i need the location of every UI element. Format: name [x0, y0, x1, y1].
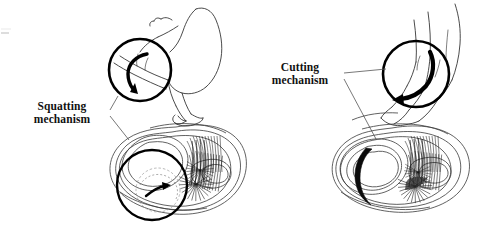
squatting-mechanism-label: Squatting mechanism [16, 100, 108, 125]
cutting-mechanism-label: Cutting mechanism [258, 61, 342, 86]
squatting-label-line1: Squatting [16, 100, 108, 113]
cutting-label-line1: Cutting [258, 61, 342, 74]
anatomical-figure: Squatting mechanism Cutting mechanism [0, 0, 504, 238]
cutting-label-line2: mechanism [258, 74, 342, 87]
squatting-label-line2: mechanism [16, 113, 108, 126]
